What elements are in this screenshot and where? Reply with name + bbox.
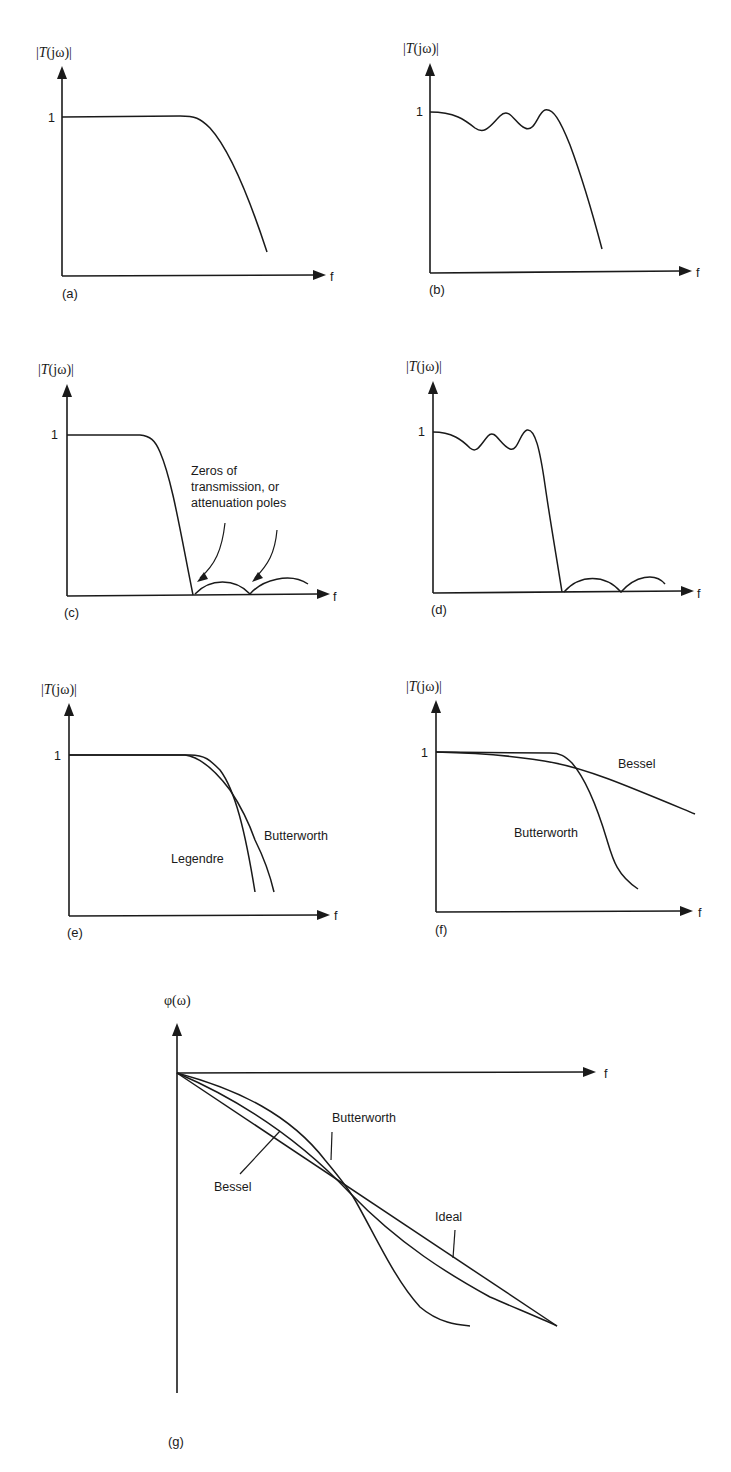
bessel-leader [240, 1131, 280, 1174]
y-axis-label: |T(jω)| [403, 41, 439, 57]
y-axis-arrow-icon [62, 384, 72, 397]
x-axis [436, 911, 681, 912]
magnitude-curve [62, 116, 267, 252]
y-axis-arrow-icon [57, 66, 67, 79]
panel-b: |T(jω)| 1 f (b) [403, 41, 700, 297]
curve-label-bessel: Bessel [618, 757, 656, 771]
y-axis-arrow-icon [431, 700, 441, 713]
x-axis-label: f [334, 909, 338, 923]
zero-arrow-1 [200, 523, 225, 578]
butterworth-curve [436, 752, 638, 889]
panel-c: |T(jω)| 1 Zeros of transmission, or atte… [38, 362, 337, 620]
stopband-lobes [195, 578, 308, 594]
panel-g: φ(ω) Butterworth Bessel Ideal f (g) [164, 993, 608, 1449]
y-axis-label: |T(jω)| [406, 679, 442, 695]
x-axis-arrow-icon [313, 270, 326, 280]
y-axis-arrow-icon [172, 1023, 182, 1036]
y-axis-label: φ(ω) [164, 993, 191, 1009]
panel-label: (c) [64, 605, 79, 620]
panel-label: (a) [62, 286, 78, 301]
y-axis-label: |T(jω)| [38, 362, 74, 378]
y-axis-label: |T(jω)| [41, 682, 77, 698]
tick-label-1: 1 [418, 425, 425, 439]
curve-label-bessel: Bessel [214, 1180, 252, 1194]
x-axis [62, 275, 314, 276]
x-axis-label: f [604, 1067, 608, 1081]
arrow-icon [197, 572, 208, 582]
butterworth-curve-2 [69, 755, 274, 892]
panel-label: (b) [429, 282, 445, 297]
x-axis-arrow-icon [681, 586, 694, 596]
curve-label-ideal: Ideal [435, 1210, 462, 1224]
x-axis-label: f [697, 587, 701, 601]
panel-a: |T(jω)| 1 f (a) [36, 45, 334, 301]
curve-label-butterworth: Butterworth [332, 1111, 396, 1125]
filter-response-figure: |T(jω)| 1 f (a) |T(jω)| 1 f (b) |T(jω)| … [0, 0, 731, 1472]
arrow-icon [252, 572, 263, 582]
panel-label: (g) [168, 1434, 184, 1449]
curve-label-butterworth: Butterworth [264, 829, 328, 843]
x-axis-arrow-icon [680, 906, 693, 916]
x-axis-arrow-icon [317, 910, 330, 920]
tick-label-1: 1 [421, 746, 428, 760]
x-axis-label: f [333, 590, 337, 604]
y-axis-label: |T(jω)| [36, 45, 72, 61]
panel-label: (e) [67, 925, 83, 940]
x-axis-label: f [330, 270, 334, 284]
tick-label-1: 1 [51, 428, 58, 442]
ideal-leader [453, 1230, 455, 1258]
x-axis-arrow-icon [679, 266, 692, 276]
magnitude-curve [67, 435, 193, 595]
stopband-lobes [564, 577, 665, 592]
x-axis-label: f [696, 266, 700, 280]
panel-f: |T(jω)| 1 Bessel Butterworth f (f) [406, 679, 702, 937]
y-axis-arrow-icon [425, 63, 435, 76]
panel-e: |T(jω)| 1 Butterworth Legendre f (e) [41, 682, 338, 940]
butterworth-leader [331, 1132, 332, 1160]
y-axis-arrow-icon [428, 381, 438, 394]
tick-label-1: 1 [48, 111, 55, 125]
x-axis [433, 591, 682, 593]
x-axis-label: f [698, 906, 702, 920]
bessel-curve [436, 752, 695, 814]
annotation-line-3: attenuation poles [191, 496, 286, 510]
curve-label-butterworth: Butterworth [514, 826, 578, 840]
x-axis-arrow-icon [583, 1067, 596, 1077]
panel-d: |T(jω)| 1 f (d) [406, 359, 701, 617]
tick-label-1: 1 [54, 749, 61, 763]
x-axis [177, 1072, 584, 1073]
magnitude-curve [430, 110, 602, 249]
x-axis [430, 271, 680, 273]
curve-label-legendre: Legendre [171, 852, 224, 866]
panel-label: (f) [435, 922, 447, 937]
zero-arrow-2 [255, 530, 277, 578]
tick-label-1: 1 [416, 105, 423, 119]
y-axis-arrow-icon [64, 703, 74, 716]
magnitude-curve [433, 430, 562, 592]
butterworth-curve [177, 1073, 470, 1326]
x-axis-arrow-icon [317, 589, 330, 599]
annotation-line-1: Zeros of [191, 464, 237, 478]
x-axis [69, 915, 318, 916]
annotation-line-2: transmission, or [191, 480, 279, 494]
butterworth-curve [69, 755, 255, 892]
y-axis-label: |T(jω)| [406, 359, 442, 375]
panel-label: (d) [431, 602, 447, 617]
